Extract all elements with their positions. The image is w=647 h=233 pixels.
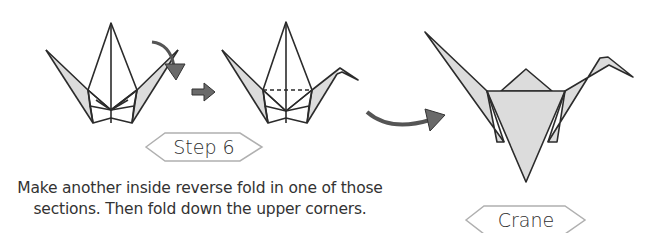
crane-finished xyxy=(425,32,633,182)
crane-step-after xyxy=(222,22,358,123)
arrow-right-icon xyxy=(192,83,215,101)
curved-arrow-right-icon xyxy=(367,109,445,131)
crane-label-badge: Crane xyxy=(466,206,585,233)
instructions-text: Make another inside reverse fold in one … xyxy=(0,178,400,220)
instructions-line-1: Make another inside reverse fold in one … xyxy=(0,178,400,199)
step-label-badge: Step 6 xyxy=(146,133,262,161)
crane-label: Crane xyxy=(498,209,554,231)
instructions-line-2: sections. Then fold down the upper corne… xyxy=(0,199,400,220)
crane-step-before xyxy=(46,23,178,123)
step-label: Step 6 xyxy=(173,136,234,158)
